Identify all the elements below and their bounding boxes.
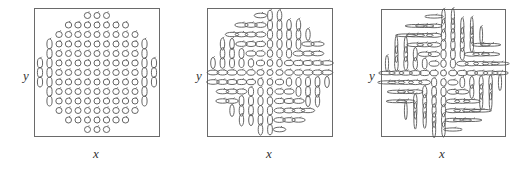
ellipse-glyph xyxy=(461,18,464,35)
ellipse-glyph xyxy=(441,79,447,87)
ellipse-glyph xyxy=(498,74,501,91)
handedness-tick xyxy=(425,57,426,58)
handedness-tick xyxy=(425,102,426,103)
ellipse-glyph xyxy=(481,53,500,56)
handedness-tick xyxy=(434,111,435,112)
ellipse-glyph xyxy=(387,90,406,93)
ellipse-glyph xyxy=(456,90,469,94)
ellipse-glyph xyxy=(398,80,413,84)
handedness-tick xyxy=(444,112,445,113)
ellipse-glyph xyxy=(415,24,434,27)
handedness-tick xyxy=(425,93,426,94)
handedness-tick xyxy=(444,69,445,70)
ellipse-glyph xyxy=(406,34,425,37)
handedness-tick xyxy=(435,77,436,78)
ellipse-glyph xyxy=(441,70,447,76)
ellipse-glyph xyxy=(378,81,397,84)
handedness-tick xyxy=(425,111,426,112)
ellipse-glyph xyxy=(408,90,423,94)
handedness-tick xyxy=(463,17,464,18)
ellipse-glyph xyxy=(441,60,447,68)
handedness-tick xyxy=(435,103,436,104)
ellipse-glyph xyxy=(429,61,439,66)
handedness-tick xyxy=(453,7,454,8)
handedness-tick xyxy=(463,76,464,77)
handedness-tick xyxy=(500,73,501,74)
ellipse-glyph xyxy=(428,52,440,57)
handedness-tick xyxy=(444,104,445,105)
ellipse-field xyxy=(0,0,530,172)
ellipse-glyph xyxy=(404,57,408,71)
ellipse-glyph xyxy=(422,58,427,69)
ellipse-glyph xyxy=(389,71,404,75)
ellipse-glyph xyxy=(413,58,417,70)
handedness-tick xyxy=(472,16,473,17)
ellipse-glyph xyxy=(395,56,399,71)
handedness-tick xyxy=(444,121,445,122)
x-axis-label: x xyxy=(439,146,445,162)
ellipse-glyph xyxy=(414,111,417,129)
ellipse-glyph xyxy=(417,43,432,47)
ellipse-glyph xyxy=(441,50,446,59)
ellipse-glyph xyxy=(404,102,407,120)
handedness-tick xyxy=(491,82,492,83)
ellipse-glyph xyxy=(460,77,465,88)
ellipse-glyph xyxy=(444,128,463,131)
handedness-tick xyxy=(444,8,445,9)
handedness-tick xyxy=(387,54,388,55)
handedness-tick xyxy=(434,120,435,121)
ellipse-glyph xyxy=(404,47,408,62)
ellipse-glyph xyxy=(385,55,388,72)
handedness-tick xyxy=(472,84,473,85)
handedness-tick xyxy=(435,94,436,95)
ellipse-glyph xyxy=(419,80,431,85)
handedness-tick xyxy=(482,92,483,93)
ellipse-glyph xyxy=(427,33,442,37)
handedness-tick xyxy=(416,101,417,102)
ellipse-glyph xyxy=(451,18,455,33)
handedness-tick xyxy=(481,25,482,26)
ellipse-glyph xyxy=(451,8,454,25)
ellipse-glyph xyxy=(448,80,458,85)
ellipse-glyph xyxy=(470,85,474,99)
ellipse-glyph xyxy=(463,100,480,104)
ellipse-glyph xyxy=(489,92,492,110)
ellipse-glyph xyxy=(480,26,483,44)
ellipse-glyph xyxy=(491,62,510,65)
ellipse-glyph xyxy=(423,112,426,129)
ellipse-glyph xyxy=(427,43,440,47)
ellipse-glyph xyxy=(425,15,444,18)
handedness-tick xyxy=(482,83,483,84)
ellipse-glyph xyxy=(449,70,457,76)
ellipse-glyph xyxy=(461,28,465,43)
ellipse-glyph xyxy=(407,43,424,47)
ellipse-glyph xyxy=(430,70,438,76)
ellipse-glyph xyxy=(433,121,436,138)
ellipse-glyph xyxy=(450,59,455,68)
